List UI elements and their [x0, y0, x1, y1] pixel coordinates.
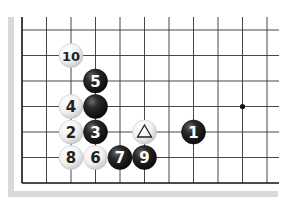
black-stone-7: 7	[108, 146, 132, 170]
stone-number-label: 10	[62, 49, 80, 64]
stone-number-label: 3	[90, 124, 100, 142]
stone-number-label: 5	[90, 73, 100, 91]
white-stone-2: 2	[59, 120, 83, 144]
white-stone	[133, 120, 157, 144]
stone-number-label: 7	[115, 149, 125, 167]
black-stone-9: 9	[133, 146, 157, 170]
black-stone-1: 1	[182, 120, 206, 144]
black-stone-3: 3	[84, 120, 108, 144]
white-stone-10: 10	[59, 44, 83, 68]
left-shadow	[8, 17, 14, 197]
bottom-shadow	[10, 191, 278, 197]
black-stone	[84, 95, 108, 119]
star-point-icon	[240, 104, 245, 109]
stone-number-label: 2	[66, 124, 76, 142]
white-stone-4: 4	[59, 95, 83, 119]
stone-number-label: 8	[66, 149, 76, 167]
stone-number-label: 1	[188, 124, 198, 142]
white-stone-8: 8	[59, 146, 83, 170]
stone-number-label: 9	[139, 149, 149, 167]
stone-number-label: 6	[90, 149, 100, 167]
star-points	[240, 104, 245, 109]
go-board-diagram: 10542318679	[0, 0, 293, 204]
black-stone-5: 5	[84, 69, 108, 93]
board-shadow	[8, 17, 278, 197]
white-stone-6: 6	[84, 146, 108, 170]
stone-number-label: 4	[66, 98, 76, 116]
